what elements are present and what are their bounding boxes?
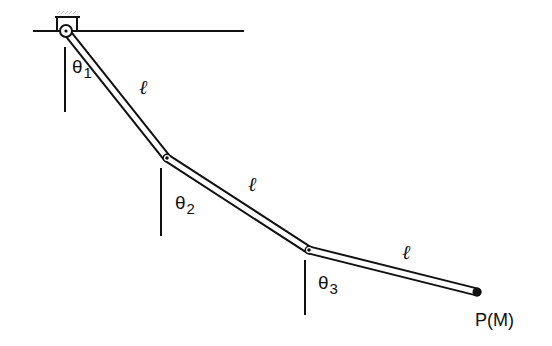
triple-pendulum-diagram	[0, 0, 552, 346]
endpoint-label: P(M)	[475, 311, 514, 329]
theta-1-label: θ1	[72, 57, 92, 80]
joint-2-icon	[165, 156, 169, 160]
theta-2-subscript: 2	[187, 200, 195, 217]
theta-3-symbol: θ	[318, 272, 329, 293]
pivot-joint-icon	[60, 25, 72, 37]
theta-1-symbol: θ	[72, 56, 83, 77]
theta-2-symbol: θ	[175, 192, 186, 213]
rod-1	[66, 31, 167, 158]
theta-3-label: θ3	[318, 273, 338, 296]
theta-1-subscript: 1	[84, 64, 92, 81]
length-label-2: ℓ	[248, 174, 256, 194]
length-label-1: ℓ	[139, 77, 147, 97]
end-mass-icon	[473, 288, 482, 297]
theta-3-subscript: 3	[330, 280, 338, 297]
length-label-3: ℓ	[402, 242, 410, 262]
theta-2-label: θ2	[175, 193, 195, 216]
joint-3-icon	[307, 248, 311, 252]
